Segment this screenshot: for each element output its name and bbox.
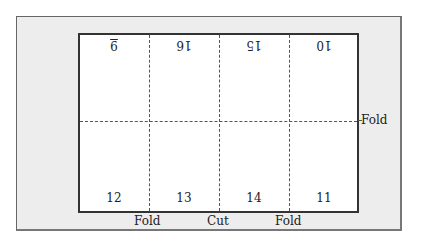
page-number-top-2: 16	[154, 38, 214, 52]
fold-line-vertical-left	[149, 35, 150, 211]
page-number-bottom-2: 13	[154, 191, 214, 205]
page-number-top-1: 9	[84, 38, 144, 52]
fold-label-bottom-left: Fold	[134, 214, 160, 228]
fold-line-horizontal	[80, 121, 357, 122]
fold-line-vertical-right	[289, 35, 290, 211]
page-number-top-4: 10	[294, 38, 354, 52]
cut-line-vertical	[219, 35, 220, 211]
page-number-top-3: 15	[224, 38, 284, 52]
page-number-bottom-3: 14	[224, 191, 284, 205]
page-number-bottom-4: 11	[294, 191, 354, 205]
fold-label-right: Fold	[361, 113, 387, 127]
fold-label-bottom-right: Fold	[275, 214, 301, 228]
page-number-bottom-1: 12	[84, 191, 144, 205]
cut-label-bottom: Cut	[207, 214, 229, 228]
printed-sheet: 9 16 15 10 12 13 14 11	[78, 33, 359, 213]
